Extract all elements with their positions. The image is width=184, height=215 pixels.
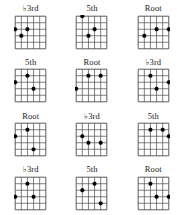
note-dot xyxy=(14,195,17,199)
note-dot xyxy=(167,27,170,31)
note-dot xyxy=(148,128,152,132)
note-dot xyxy=(154,195,158,199)
fretboard xyxy=(14,176,47,211)
note-dot xyxy=(161,128,165,132)
diagram-label: Root xyxy=(84,57,101,67)
note-dot xyxy=(26,27,30,31)
diagram-label: ♭3rd xyxy=(84,111,100,121)
fretboard xyxy=(14,68,47,103)
note-dot xyxy=(93,27,97,31)
fretboard-diagram: ♭3rd xyxy=(0,0,61,54)
fretboard-diagram: Root xyxy=(0,108,61,162)
diagram-label: 5th xyxy=(86,3,97,13)
note-dot xyxy=(87,141,91,145)
note-dot xyxy=(75,87,78,91)
note-dot xyxy=(154,87,158,91)
note-dot xyxy=(93,182,97,186)
note-dot xyxy=(148,74,152,78)
note-dot xyxy=(99,74,103,78)
note-dot xyxy=(81,15,85,18)
note-dot xyxy=(154,27,158,31)
fretboard xyxy=(137,15,170,50)
note-dot xyxy=(167,81,170,85)
fretboard-diagram: 5th xyxy=(0,54,61,108)
note-dot xyxy=(14,27,17,31)
diagram-label: Root xyxy=(145,3,162,13)
note-dot xyxy=(32,195,36,199)
fretboard-diagram: ♭3rd xyxy=(0,161,61,215)
diagram-label: 5th xyxy=(86,164,97,174)
fretboard-diagram: 5th xyxy=(61,161,122,215)
diagram-label: Root xyxy=(22,111,39,121)
fretboard xyxy=(75,68,108,103)
diagram-label: ♭3rd xyxy=(145,57,161,67)
note-dot xyxy=(87,74,91,78)
note-dot xyxy=(26,74,30,78)
fretboard-diagram: Root xyxy=(123,0,184,54)
fretboard xyxy=(137,122,170,157)
note-dot xyxy=(20,33,24,37)
note-dot xyxy=(87,33,91,37)
diagram-label: 5th xyxy=(148,111,159,121)
diagram-label: ♭3rd xyxy=(23,164,39,174)
note-dot xyxy=(167,195,170,199)
note-dot xyxy=(167,134,170,138)
fretboard-diagram: Root xyxy=(61,54,122,108)
note-dot xyxy=(14,81,17,85)
note-dot xyxy=(99,201,103,205)
note-dot xyxy=(148,182,152,186)
fretboard-diagram: ♭3rd xyxy=(123,54,184,108)
diagram-label: Root xyxy=(145,164,162,174)
fretboard-diagram-sheet: ♭3rd5thRoot5thRoot♭3rdRoot♭3rd5th♭3rd5th… xyxy=(0,0,184,215)
fretboard xyxy=(137,176,170,211)
fretboard xyxy=(75,15,108,50)
note-dot xyxy=(142,33,146,37)
note-dot xyxy=(99,141,103,145)
fretboard-diagram: Root xyxy=(123,161,184,215)
diagram-label: 5th xyxy=(25,57,36,67)
diagram-label: ♭3rd xyxy=(23,3,39,13)
note-dot xyxy=(32,87,36,91)
fretboard xyxy=(75,122,108,157)
note-dot xyxy=(14,134,17,138)
fretboard xyxy=(137,68,170,103)
note-dot xyxy=(26,182,30,186)
diagram-grid: ♭3rd5thRoot5thRoot♭3rdRoot♭3rd5th♭3rd5th… xyxy=(0,0,184,215)
fretboard xyxy=(75,176,108,211)
note-dot xyxy=(32,147,36,151)
note-dot xyxy=(81,188,85,192)
fretboard xyxy=(14,15,47,50)
fretboard-diagram: 5th xyxy=(61,0,122,54)
fretboard-diagram: 5th xyxy=(123,108,184,162)
note-dot xyxy=(81,134,85,138)
fretboard xyxy=(14,122,47,157)
note-dot xyxy=(26,128,30,132)
fretboard-diagram: ♭3rd xyxy=(61,108,122,162)
